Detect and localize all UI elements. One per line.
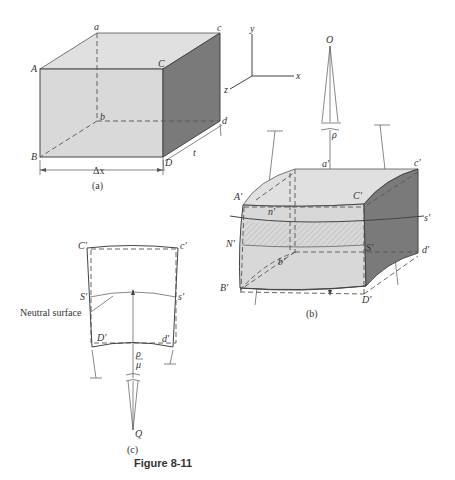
- vertex-s-prime: s′: [424, 212, 431, 223]
- section-s-prime: s′: [178, 291, 185, 302]
- dim-delta-x: Δx: [93, 165, 104, 176]
- vertex-d: d: [222, 115, 228, 126]
- vertex-S-prime: S′: [366, 242, 374, 253]
- coordinate-axes: [230, 34, 294, 89]
- dim-t: t: [193, 147, 196, 158]
- vertex-C: C: [158, 58, 165, 69]
- vertex-a: a: [94, 21, 99, 32]
- section-D-prime: D′: [96, 332, 107, 343]
- vertex-C-prime: C′: [353, 190, 363, 201]
- vertex-B: B: [31, 151, 37, 162]
- vertex-n-prime: n′: [268, 206, 276, 217]
- vertex-c: c: [217, 22, 222, 33]
- vertex-c-prime: c′: [414, 157, 421, 168]
- vertex-N-prime: N′: [225, 238, 236, 249]
- axis-z-label: z: [223, 84, 228, 95]
- panel-b-block: [230, 169, 424, 294]
- vertex-b-prime: b′: [278, 256, 286, 267]
- vertex-A-prime: A′: [233, 191, 243, 202]
- vertex-B-prime: B′: [220, 282, 229, 293]
- figure-title: Figure 8-11: [134, 457, 192, 469]
- section-c-prime: c′: [180, 240, 187, 251]
- center-Q-label: Q: [135, 428, 143, 439]
- vertex-D-prime: D′: [361, 294, 372, 305]
- vertex-d-prime: d′: [422, 244, 430, 255]
- section-d-prime: d′: [162, 333, 170, 344]
- section-C-prime: C′: [78, 240, 88, 251]
- section-S-prime: S′: [80, 291, 88, 302]
- radius-rho-c: ρ: [135, 348, 141, 359]
- radius-rho-label: ρ: [331, 129, 337, 140]
- axis-x-label: x: [295, 70, 301, 81]
- vertex-D: D: [164, 157, 173, 168]
- caption-c: (c): [127, 444, 138, 456]
- radius-mu-c: μ: [135, 359, 141, 370]
- caption-b: (b): [306, 308, 318, 320]
- center-O-label: O: [326, 34, 333, 45]
- vertex-b: b: [100, 111, 105, 122]
- axis-y-label: y: [249, 23, 255, 34]
- vertex-a-prime: a′: [322, 158, 330, 169]
- figure-canvas: a c A C b d B D Δx t (a) y x z O ρ: [0, 0, 455, 480]
- neutral-surface-label: Neutral surface: [20, 307, 82, 318]
- vertex-A: A: [30, 63, 38, 74]
- caption-a: (a): [92, 180, 103, 192]
